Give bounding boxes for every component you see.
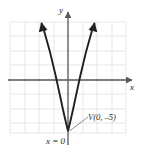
vertex-label: V(0, –5)	[88, 113, 116, 122]
y-axis-label: y	[59, 6, 63, 15]
graph-canvas	[0, 0, 142, 159]
parabola-right-arrow	[93, 23, 95, 30]
parabola-left-arrow	[42, 23, 44, 30]
parabola-figure: y x V(0, –5) x = 0	[0, 0, 142, 159]
axis-of-symmetry-label: x = 0	[46, 137, 65, 146]
x-axis-label: x	[130, 83, 134, 92]
vertex-leader-line	[70, 117, 89, 131]
